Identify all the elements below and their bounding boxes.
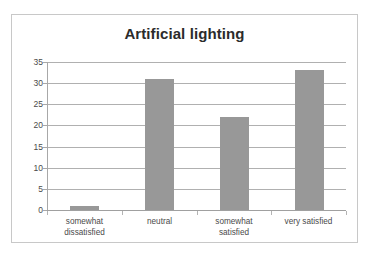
bar-neutral (145, 79, 174, 210)
x-tick-mark-3 (271, 211, 272, 215)
y-tick-label-35: 35 (15, 58, 43, 67)
x-tick-mark-1 (122, 211, 123, 215)
y-axis-tick-labels: 35 30 25 20 15 10 5 0 (12, 62, 43, 210)
x-category-label-line1: very satisfied (271, 216, 346, 227)
bar-somewhat-satisfied (220, 117, 249, 210)
y-tick-label-15: 15 (15, 143, 43, 152)
x-category-label-neutral: neutral (122, 216, 197, 227)
y-tick-label-20: 20 (15, 121, 43, 130)
x-category-label-very-satisfied: very satisfied (271, 216, 346, 227)
x-category-label-somewhat-satisfied: somewhat satisfied (197, 216, 271, 238)
x-category-label-line1: somewhat (197, 216, 271, 227)
y-axis-line (47, 62, 48, 211)
x-category-label-line1: somewhat (47, 216, 122, 227)
x-category-label-line1: neutral (122, 216, 197, 227)
y-tick-label-10: 10 (15, 164, 43, 173)
y-tick-label-30: 30 (15, 79, 43, 88)
gridline-35 (47, 62, 346, 63)
x-category-label-line2: satisfied (197, 227, 271, 238)
chart-container: Artificial lighting 35 30 25 20 15 10 5 … (11, 14, 358, 243)
x-tick-mark-0 (47, 211, 48, 215)
plot-area (47, 62, 346, 210)
chart-title: Artificial lighting (12, 25, 357, 42)
x-tick-mark-2 (197, 211, 198, 215)
x-tick-mark-4 (346, 211, 347, 215)
bar-very-satisfied (295, 70, 324, 210)
y-tick-label-0: 0 (15, 206, 43, 215)
y-tick-label-25: 25 (15, 100, 43, 109)
x-category-label-line2: dissatisfied (47, 227, 122, 238)
y-tick-label-5: 5 (15, 185, 43, 194)
x-category-label-somewhat-dissatisfied: somewhat dissatisfied (47, 216, 122, 238)
